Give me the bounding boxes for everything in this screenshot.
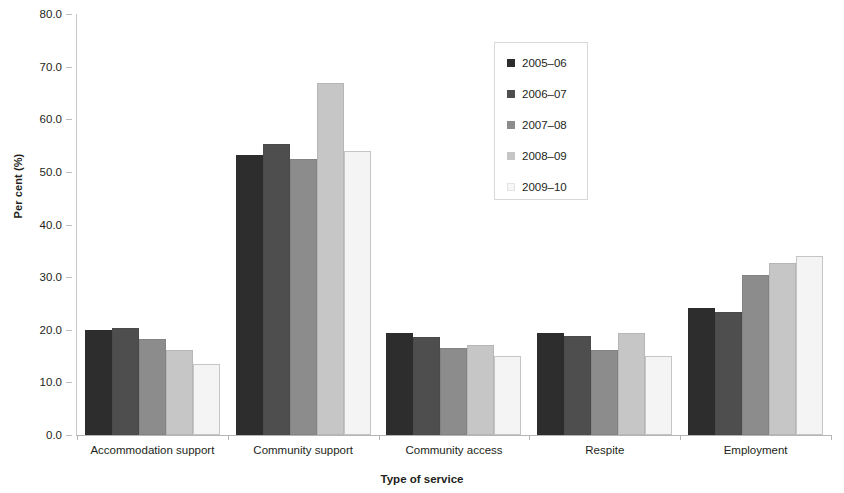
bar [290, 159, 317, 435]
bar-chart: Per cent (%) 0.010.020.030.040.050.060.0… [0, 0, 844, 493]
bar [236, 155, 263, 435]
bar-group [680, 14, 831, 435]
x-category-label: Community support [253, 444, 353, 456]
x-tick-mark [77, 435, 78, 440]
y-tick-mark [66, 225, 72, 226]
legend-item: 2005–06 [507, 57, 567, 69]
x-tick-mark [680, 435, 681, 440]
bar [564, 336, 591, 435]
bar [263, 144, 290, 435]
x-tick-mark [831, 435, 832, 440]
legend-swatch-icon [507, 90, 515, 98]
legend-label: 2006–07 [522, 88, 567, 100]
legend-item: 2006–07 [507, 88, 567, 100]
y-tick-label: 30.0 [40, 271, 62, 283]
legend-swatch-icon [507, 183, 515, 191]
bar [618, 333, 645, 435]
y-tick-label: 70.0 [40, 61, 62, 73]
y-axis-ticks: 0.010.020.030.040.050.060.070.080.0 [0, 0, 76, 493]
y-tick-mark [66, 67, 72, 68]
x-category-label: Respite [585, 444, 624, 456]
y-tick-mark [66, 435, 72, 436]
x-tick-mark [379, 435, 380, 440]
legend-swatch-icon [507, 59, 515, 67]
legend: 2005–062006–072007–082008–092009–10 [494, 42, 588, 200]
y-tick-mark [66, 14, 72, 15]
legend-label: 2005–06 [522, 57, 567, 69]
plot-area [77, 14, 831, 435]
bar [769, 263, 796, 435]
x-tick-mark [529, 435, 530, 440]
bar [139, 339, 166, 435]
bar [645, 356, 672, 435]
bar [413, 337, 440, 435]
y-tick-label: 50.0 [40, 166, 62, 178]
bar-group [228, 14, 379, 435]
y-tick-mark [66, 172, 72, 173]
bar [591, 350, 618, 435]
bar-group-bars [680, 14, 831, 435]
bar [715, 312, 742, 435]
legend-label: 2009–10 [522, 181, 567, 193]
bar [85, 330, 112, 435]
y-tick-label: 20.0 [40, 324, 62, 336]
bar [796, 256, 823, 435]
legend-item: 2009–10 [507, 181, 567, 193]
y-tick-label: 0.0 [46, 429, 62, 441]
y-tick-mark [66, 277, 72, 278]
y-tick-mark [66, 382, 72, 383]
bar [440, 348, 467, 435]
bar [386, 333, 413, 435]
bar [166, 350, 193, 435]
legend-item: 2007–08 [507, 119, 567, 131]
legend-swatch-icon [507, 152, 515, 160]
x-axis-title: Type of service [0, 473, 844, 485]
legend-item: 2008–09 [507, 150, 567, 162]
x-category-label: Accommodation support [90, 444, 214, 456]
y-tick-mark [66, 119, 72, 120]
bar [344, 151, 371, 435]
bar [317, 83, 344, 435]
y-tick-label: 40.0 [40, 219, 62, 231]
legend-swatch-icon [507, 121, 515, 129]
x-category-label: Community access [405, 444, 502, 456]
bar [742, 275, 769, 436]
bar [494, 356, 521, 435]
bar [112, 328, 139, 435]
bar [537, 333, 564, 435]
legend-label: 2008–09 [522, 150, 567, 162]
bar [688, 308, 715, 435]
x-axis-line [76, 435, 831, 436]
y-tick-label: 80.0 [40, 8, 62, 20]
bar [467, 345, 494, 436]
y-tick-label: 10.0 [40, 376, 62, 388]
x-category-label: Employment [724, 444, 788, 456]
y-tick-label: 60.0 [40, 113, 62, 125]
y-tick-mark [66, 330, 72, 331]
bar-group-bars [228, 14, 379, 435]
bar-group [77, 14, 228, 435]
bar-group-bars [77, 14, 228, 435]
x-tick-mark [228, 435, 229, 440]
legend-label: 2007–08 [522, 119, 567, 131]
bar [193, 364, 220, 435]
